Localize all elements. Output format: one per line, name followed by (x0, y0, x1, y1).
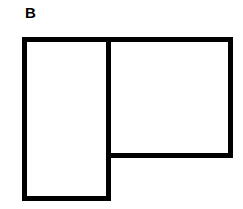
left-rectangle (22, 37, 111, 201)
panel-label: B (25, 5, 36, 20)
right-rectangle (106, 37, 233, 158)
